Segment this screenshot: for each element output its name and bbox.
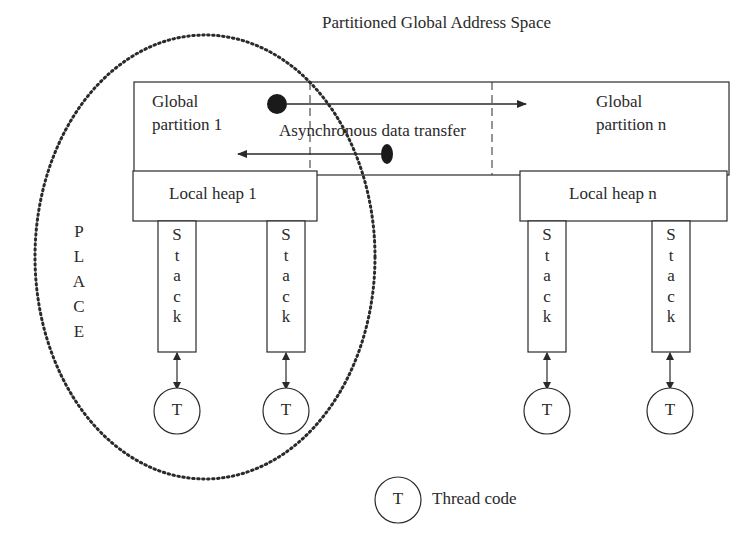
thread-label: T [527, 400, 567, 420]
place-letter: P [64, 219, 94, 244]
global-partition-n-line2: partition n [596, 115, 666, 135]
stack-letter: a [656, 266, 686, 287]
diagram-canvas [0, 0, 735, 547]
stack-letter: t [271, 246, 301, 267]
legend-label: Thread code [432, 489, 516, 509]
stack-letter: S [162, 225, 192, 246]
stack-letter: k [532, 307, 562, 328]
stack-letter: k [656, 307, 686, 328]
place-letter: L [64, 244, 94, 269]
stack-label: S t a c k [532, 225, 562, 328]
place-letter: C [64, 294, 94, 319]
global-partition-n-line1: Global [596, 92, 642, 112]
async-transfer-label: Asynchronous data transfer [279, 121, 466, 141]
stack-letter: S [271, 225, 301, 246]
transfer-source-dot-2 [381, 144, 393, 164]
stack-label: S t a c k [656, 225, 686, 328]
stack-letter: a [532, 266, 562, 287]
place-letter: E [64, 319, 94, 344]
thread-label: T [650, 400, 690, 420]
diagram-title: Partitioned Global Address Space [322, 13, 551, 33]
stack-letter: a [271, 266, 301, 287]
stack-letter: c [532, 287, 562, 308]
transfer-source-dot [267, 94, 287, 114]
place-letter: A [64, 269, 94, 294]
global-partition-1-line1: Global [152, 92, 198, 112]
stack-letter: k [162, 307, 192, 328]
stack-letter: k [271, 307, 301, 328]
stack-letter: S [532, 225, 562, 246]
place-label: P L A C E [64, 219, 94, 344]
thread-label: T [266, 400, 306, 420]
stack-letter: c [162, 287, 192, 308]
stack-letter: t [162, 246, 192, 267]
stack-letter: a [162, 266, 192, 287]
stack-letter: S [656, 225, 686, 246]
local-heap-1-label: Local heap 1 [169, 184, 257, 204]
stack-letter: c [271, 287, 301, 308]
stack-label: S t a c k [162, 225, 192, 328]
legend-thread-symbol: T [378, 489, 418, 509]
local-heap-n-label: Local heap n [569, 184, 657, 204]
stack-letter: t [656, 246, 686, 267]
thread-label: T [157, 400, 197, 420]
stack-letter: c [656, 287, 686, 308]
global-partition-1-line2: partition 1 [152, 115, 222, 135]
stack-label: S t a c k [271, 225, 301, 328]
stack-letter: t [532, 246, 562, 267]
